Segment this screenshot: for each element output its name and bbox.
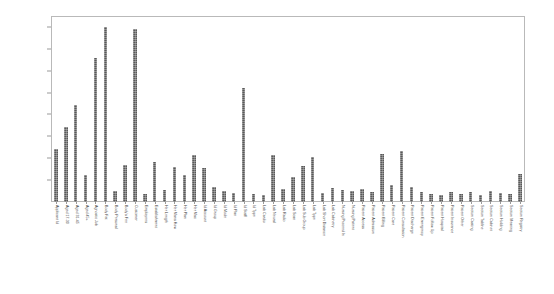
- x-axis-tick-label: Id Group: [212, 205, 216, 219]
- x-axis-tick-mark: [362, 202, 363, 204]
- bar: [331, 188, 335, 202]
- x-axis-tick-mark: [253, 202, 254, 204]
- bar: [400, 151, 404, 202]
- x-axis-tick-label: Id Type: [252, 205, 256, 217]
- x-axis-tick-label: Aged 17-30: [64, 205, 68, 224]
- x-axis-tick-mark: [510, 202, 511, 204]
- x-axis-label-slot: Patient Emergency: [416, 203, 426, 294]
- x-axis-tick-mark: [105, 202, 106, 204]
- x-axis-tick-mark: [520, 202, 521, 204]
- bar: [232, 193, 236, 202]
- x-axis-tick-mark: [263, 202, 264, 204]
- bar: [173, 167, 177, 202]
- x-axis-label-slot: Id Group: [209, 203, 219, 294]
- bar: [311, 157, 315, 202]
- x-axis-tick-mark: [372, 202, 373, 204]
- bar: [341, 190, 345, 202]
- x-axis-tick-label: Patient Hospital: [439, 205, 443, 231]
- x-axis-tick-label: Patient Billing: [380, 205, 384, 227]
- x-axis-tick-label: Aged 45+: [84, 205, 88, 221]
- bar: [469, 192, 473, 202]
- bar: [291, 177, 295, 202]
- x-axis-tick-label: Patient Other: [459, 205, 463, 226]
- x-axis-tick-mark: [451, 202, 452, 204]
- x-axis-tick-mark: [234, 202, 235, 204]
- bar: [420, 192, 424, 202]
- bar: [222, 191, 226, 202]
- x-axis-tick-mark: [56, 202, 57, 204]
- bar: [459, 194, 463, 202]
- x-axis-label-slot: Aged 17-30: [61, 203, 71, 294]
- x-axis-tick-label: Agnostic Job: [94, 205, 98, 226]
- bar: [74, 105, 78, 202]
- bar: [360, 189, 364, 202]
- x-axis-label-slot: Id Staff: [239, 203, 249, 294]
- x-axis-tick-mark: [332, 202, 333, 204]
- x-axis-tick-label: Her Mac: [192, 205, 196, 219]
- bar: [64, 127, 68, 202]
- x-axis-label-slot: Patient Admission: [367, 203, 377, 294]
- x-axis-label-slot: Aged 45+: [81, 203, 91, 294]
- x-axis-tick-label: Patient Insurance: [449, 205, 453, 233]
- x-axis-label-slot: Body Personal: [110, 203, 120, 294]
- x-axis-tick-label: Section Cabinet: [489, 205, 493, 231]
- x-axis-label-slot: Id Account: [199, 203, 209, 294]
- bar: [54, 149, 58, 202]
- x-axis-label-slot: Her Length: [160, 203, 170, 294]
- x-axis-tick-mark: [76, 202, 77, 204]
- x-axis-tick-label: Her Plan: [182, 205, 186, 219]
- x-axis-label-slot: Applicant Id: [51, 203, 61, 294]
- x-axis-tick-mark: [125, 202, 126, 204]
- x-axis-tick-label: Id Account: [202, 205, 206, 222]
- x-axis-label-slot: Establishment: [150, 203, 160, 294]
- x-axis-label-slot: Patient Other: [456, 203, 466, 294]
- x-axis-tick-mark: [293, 202, 294, 204]
- bar: [321, 193, 325, 202]
- bar: [84, 175, 88, 202]
- x-axis-tick-mark: [95, 202, 96, 204]
- x-axis-label-slot: Lab Sub Group: [298, 203, 308, 294]
- x-axis-tick-mark: [500, 202, 501, 204]
- x-axis-tick-mark: [421, 202, 422, 204]
- bar-chart: 200040006000800010000120001400016000 App…: [0, 0, 554, 294]
- x-axis-tick-label: Patient Discharge: [410, 205, 414, 234]
- bar: [350, 191, 354, 202]
- x-axis-tick-mark: [313, 202, 314, 204]
- x-axis-tick-label: Body Personal: [113, 205, 117, 229]
- y-axis: 200040006000800010000120001400016000: [0, 0, 51, 294]
- x-axis-tick-label: Nursing Proceed In: [340, 205, 344, 236]
- bar: [410, 187, 414, 202]
- x-axis-tick-label: Patient Follow Up: [429, 205, 433, 234]
- x-axis-label-slot: Lab Cabinetry: [328, 203, 338, 294]
- bar: [202, 168, 206, 202]
- x-axis-tick-label: Patient Care: [390, 205, 394, 225]
- x-axis-tick-mark: [204, 202, 205, 204]
- bar: [163, 190, 167, 202]
- x-axis-tick-label: Body Fat: [103, 205, 107, 220]
- x-axis-tick-label: Id Plan: [232, 205, 236, 216]
- x-axis-tick-mark: [194, 202, 195, 204]
- x-axis-label-slot: Section Casting: [466, 203, 476, 294]
- bar: [183, 175, 187, 202]
- x-axis-tick-mark: [303, 202, 304, 204]
- x-axis-tick-mark: [184, 202, 185, 204]
- x-axis-label-slot: Id Type: [249, 203, 259, 294]
- x-axis-tick-label: Customer: [133, 205, 137, 221]
- x-axis-label-slot: Section Meaning: [505, 203, 515, 294]
- x-axis-tick-mark: [214, 202, 215, 204]
- x-axis-tick-mark: [461, 202, 462, 204]
- x-axis-tick-mark: [352, 202, 353, 204]
- x-axis-tick-label: Lab Cardio: [261, 205, 265, 223]
- bar: [192, 155, 196, 202]
- x-axis-label-slot: Patient Follow Up: [426, 203, 436, 294]
- bar: [242, 88, 246, 202]
- x-axis-label-slot: Body's Fee: [120, 203, 130, 294]
- x-axis-tick-label: Lab Type: [311, 205, 315, 220]
- x-axis-tick-mark: [145, 202, 146, 204]
- x-axis-tick-label: Patient Emergency: [419, 205, 423, 236]
- x-axis-label-slot: Patient Access: [357, 203, 367, 294]
- x-axis-tick-mark: [273, 202, 274, 204]
- x-axis-tick-mark: [244, 202, 245, 204]
- x-axis-tick-label: Patient Access: [360, 205, 364, 229]
- bar: [370, 192, 374, 202]
